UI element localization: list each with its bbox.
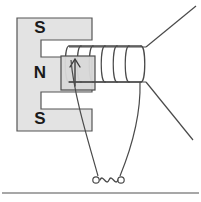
pole-label-top: S [34, 18, 45, 37]
electromagnet-diagram: S N S [0, 0, 201, 202]
lead-to-source-right [120, 82, 140, 176]
diagram-canvas: S N S [0, 0, 201, 202]
ac-source-symbol [93, 177, 124, 183]
ac-terminal-right [118, 177, 124, 183]
armature-core-block [61, 56, 95, 90]
lead-upper-right [146, 6, 196, 47]
ac-sine-wave-icon [100, 178, 118, 182]
lead-lower-right [146, 82, 193, 140]
pole-label-middle: N [34, 63, 46, 82]
ac-terminal-left [93, 177, 99, 183]
pole-label-bottom: S [34, 109, 45, 128]
